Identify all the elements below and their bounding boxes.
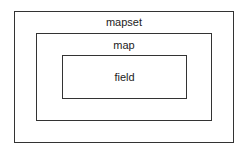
field-box: field bbox=[62, 55, 187, 99]
field-label: field bbox=[63, 71, 186, 83]
map-label: map bbox=[37, 39, 211, 51]
mapset-label: mapset bbox=[15, 16, 233, 28]
